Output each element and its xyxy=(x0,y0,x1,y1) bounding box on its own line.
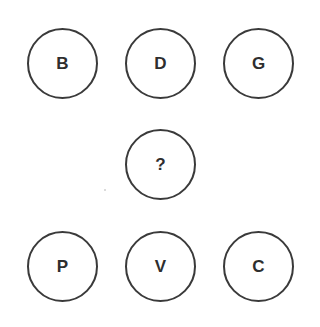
circle-letter: G xyxy=(252,54,265,74)
question-mark: ? xyxy=(155,155,165,175)
circle-letter: D xyxy=(154,54,166,74)
circle-letter: B xyxy=(56,54,68,74)
circle-letter: C xyxy=(252,257,264,277)
circle-letter: V xyxy=(155,257,166,277)
circle-middle-question: ? xyxy=(125,129,196,200)
circle-top-left: B xyxy=(27,28,98,99)
circle-top-middle: D xyxy=(125,28,196,99)
circle-top-right: G xyxy=(223,28,294,99)
speck xyxy=(104,189,106,191)
circle-letter: P xyxy=(57,257,68,277)
circle-bottom-left: P xyxy=(27,231,98,302)
circle-bottom-middle: V xyxy=(125,231,196,302)
circle-bottom-right: C xyxy=(223,231,294,302)
